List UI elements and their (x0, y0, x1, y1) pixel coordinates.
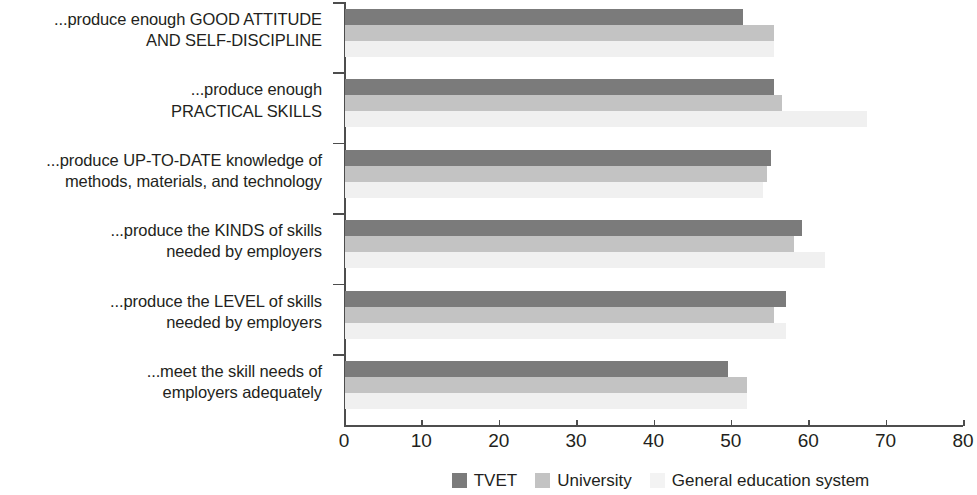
legend-swatch-icon (452, 473, 467, 488)
value-axis-tick (421, 420, 423, 426)
category-label-line: PRACTICAL SKILLS (0, 101, 322, 122)
legend-label: General education system (672, 471, 870, 491)
category-label-line: ...produce the KINDS of skills (0, 220, 322, 241)
category-tick (333, 354, 344, 356)
value-axis-tick-label: 70 (875, 430, 896, 452)
value-axis-tick-label: 40 (643, 430, 664, 452)
category-label: ...meet the skill needs ofemployers adeq… (0, 361, 322, 403)
category-label-line: needed by employers (0, 312, 322, 333)
value-axis-tick-label: 30 (566, 430, 587, 452)
value-axis-tick (963, 420, 965, 426)
value-axis-tick-label: 20 (488, 430, 509, 452)
bar-university (345, 166, 767, 182)
category-axis-labels: ...produce enough GOOD ATTITUDEAND SELF-… (0, 0, 330, 425)
value-axis-tick (654, 420, 656, 426)
legend-label: University (557, 471, 632, 491)
category-label-line: AND SELF-DISCIPLINE (0, 30, 322, 51)
bar-general-education-system (345, 323, 786, 339)
bar-tvet (345, 220, 802, 236)
category-label-line: ...produce enough GOOD ATTITUDE (0, 9, 322, 30)
bar-general-education-system (345, 182, 763, 198)
value-axis-tick (576, 420, 578, 426)
legend-swatch-icon (535, 473, 550, 488)
bar-tvet (345, 9, 743, 25)
category-label-line: needed by employers (0, 241, 322, 262)
value-axis-tick (731, 420, 733, 426)
bar-general-education-system (345, 252, 825, 268)
value-axis-tick (808, 420, 810, 426)
bar-general-education-system (345, 111, 867, 127)
bar-general-education-system (345, 41, 774, 57)
category-tick (333, 143, 344, 145)
category-label-line: ...produce UP-TO-DATE knowledge of (0, 150, 322, 171)
legend-label: TVET (474, 471, 517, 491)
category-label-line: methods, materials, and technology (0, 171, 322, 192)
category-label: ...produce UP-TO-DATE knowledge ofmethod… (0, 150, 322, 192)
category-label-line: ...produce the LEVEL of skills (0, 291, 322, 312)
bar-university (345, 25, 774, 41)
legend-item[interactable]: General education system (650, 471, 870, 491)
bar-tvet (345, 291, 786, 307)
value-axis-tick (344, 420, 346, 426)
legend-item[interactable]: University (535, 471, 632, 491)
value-axis-tick (499, 420, 501, 426)
bar-university (345, 377, 747, 393)
value-axis-tick (886, 420, 888, 426)
category-label: ...produce the KINDS of skillsneeded by … (0, 220, 322, 262)
category-label-line: ...produce enough (0, 79, 322, 100)
legend-item[interactable]: TVET (452, 471, 517, 491)
value-axis-tick-label: 0 (339, 430, 350, 452)
category-label-line: employers adequately (0, 382, 322, 403)
value-axis-tick-label: 50 (720, 430, 741, 452)
value-axis-tick-label: 80 (952, 430, 973, 452)
bar-tvet (345, 79, 774, 95)
category-tick (333, 213, 344, 215)
category-label: ...produce the LEVEL of skillsneeded by … (0, 291, 322, 333)
bar-university (345, 236, 794, 252)
category-tick (333, 2, 344, 4)
chart-legend: TVETUniversityGeneral education system (344, 466, 977, 495)
category-label-line: ...meet the skill needs of (0, 361, 322, 382)
bar-tvet (345, 150, 771, 166)
bar-university (345, 307, 774, 323)
value-axis-tick-label: 60 (798, 430, 819, 452)
value-axis-tick-label: 10 (411, 430, 432, 452)
horizontal-bar-chart: ...produce enough GOOD ATTITUDEAND SELF-… (0, 0, 977, 495)
category-label: ...produce enoughPRACTICAL SKILLS (0, 79, 322, 121)
category-tick (333, 284, 344, 286)
legend-swatch-icon (650, 473, 665, 488)
plot-area (344, 0, 977, 425)
bar-university (345, 95, 782, 111)
category-label: ...produce enough GOOD ATTITUDEAND SELF-… (0, 9, 322, 51)
bar-tvet (345, 361, 728, 377)
category-tick (333, 72, 344, 74)
bar-general-education-system (345, 393, 747, 409)
